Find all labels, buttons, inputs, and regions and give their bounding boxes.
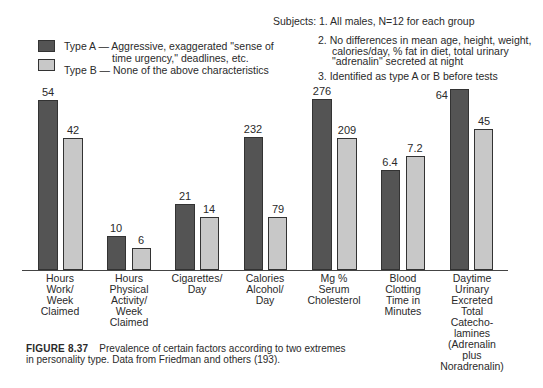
bar-type-b-catecholamines (474, 129, 493, 270)
value-label-a-6: 6.4 (370, 156, 410, 168)
caption-text-line2: in personality type. Data from Friedman … (26, 354, 346, 365)
bar-type-b-calories-alcohol (268, 217, 287, 270)
legend-type-a-line2: time urgency," deadlines, etc. (112, 52, 249, 64)
category-label-cholesterol: Mg % Serum Cholesterol (294, 273, 374, 306)
bar-type-b-clotting-time (406, 156, 425, 270)
bar-type-b-cholesterol (337, 138, 357, 270)
cat-line: Claimed (20, 306, 100, 317)
value-label-a-1: 54 (28, 86, 68, 98)
value-label-b-6: 7.2 (395, 142, 435, 154)
value-label-b-2: 6 (121, 234, 161, 246)
note-2-line3: "adrenalin" secreted at night (332, 56, 463, 67)
caption-line1: FIGURE 8.37 Prevalence of certain factor… (26, 343, 346, 354)
category-label-hours-work: Hours Work/ Week Claimed (20, 273, 100, 317)
value-label-a-7: 64 (418, 89, 448, 101)
legend-type-a-line1: Type A — Aggressive, exaggerated "sense … (64, 40, 274, 52)
cat-line: Minutes (363, 306, 443, 317)
value-label-a-2: 10 (96, 222, 136, 234)
value-label-b-7: 45 (464, 115, 504, 127)
note-3: 3. Identified as type A or B before test… (318, 71, 498, 82)
bar-type-b-hours-work (63, 138, 83, 270)
cat-line: Noradrenalin) (432, 361, 512, 372)
cat-line: Cholesterol (294, 295, 374, 306)
note-1: 1. All males, N=12 for each group (319, 16, 475, 27)
cat-line: Claimed (89, 317, 169, 328)
value-label-b-4: 79 (258, 203, 298, 215)
value-label-b-1: 42 (53, 124, 93, 136)
caption-text-line1: Prevalence of certain factors according … (99, 343, 345, 354)
category-label-catecholamines: Daytime Urinary Excreted Total Catecho- … (432, 273, 512, 372)
legend-type-b: Type B — None of the above characteristi… (64, 64, 269, 76)
figure-caption: FIGURE 8.37 Prevalence of certain factor… (26, 343, 346, 365)
value-label-a-4: 232 (233, 123, 273, 135)
legend-swatch-type-b (38, 59, 55, 71)
notes-label: Subjects: (273, 16, 316, 27)
bar-type-b-cigarettes (200, 217, 219, 270)
legend-swatch-type-a (38, 40, 55, 52)
category-label-calories-alcohol: Calories Alcohol/ Day (225, 273, 305, 306)
figure-number: FIGURE 8.37 (26, 343, 88, 354)
value-label-a-5: 276 (302, 85, 342, 97)
value-label-b-3: 14 (189, 203, 229, 215)
value-label-a-3: 21 (165, 190, 205, 202)
x-axis-baseline (22, 270, 508, 271)
cat-line: Day (225, 295, 305, 306)
value-label-b-5: 209 (327, 124, 367, 136)
bar-type-a-clotting-time (381, 170, 400, 270)
category-label-clotting-time: Blood Clotting Time in Minutes (363, 273, 443, 317)
bar-type-b-physical-activity (132, 248, 151, 270)
